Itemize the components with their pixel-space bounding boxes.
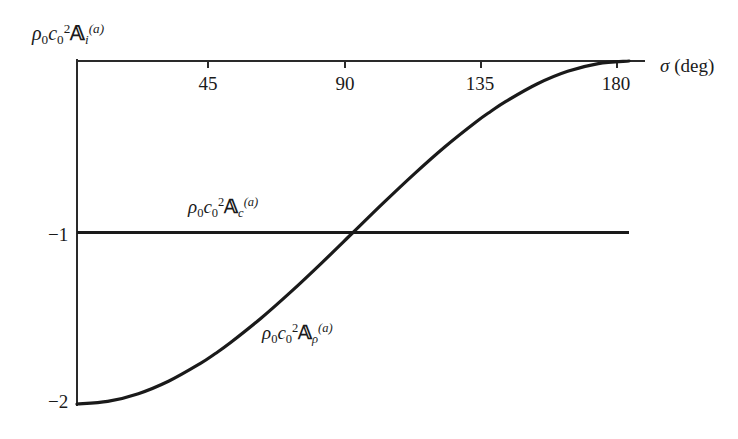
symbol-c: c	[48, 22, 57, 44]
x-tick-label-180: 180	[596, 74, 636, 93]
curve-label-a-rho: ρ0c02𝔸ρ(a)	[262, 322, 333, 345]
x-tick-label-135: 135	[460, 74, 500, 93]
symbol-rho: ρ	[262, 322, 271, 343]
y-tick-label-minus-one: −1	[48, 225, 68, 244]
curve-label-a-c: ρ0c02𝔸c(a)	[188, 196, 258, 219]
x-axis-unit: (deg)	[674, 55, 714, 76]
symbol-c-subscript-0: 0	[57, 32, 64, 47]
symbol-blackboard-A: 𝔸	[224, 196, 238, 217]
y-axis-quantity-label: ρ0c02𝔸i(a)	[32, 22, 104, 46]
symbol-superscript-a: (a)	[89, 21, 104, 36]
y-tick-label-minus-two: −2	[48, 392, 68, 411]
symbol-superscript-a: (a)	[244, 195, 259, 209]
x-tick-label-45: 45	[188, 74, 228, 93]
figure-container: ρ0c02𝔸i(a) ρ0c02𝔸c(a) ρ0c02𝔸ρ(a) σ (deg)…	[0, 0, 738, 439]
x-axis-symbol-sigma: σ	[660, 55, 669, 76]
symbol-c: c	[277, 322, 285, 343]
symbol-blackboard-A: 𝔸	[298, 322, 312, 343]
chart-svg	[0, 0, 738, 439]
symbol-rho: ρ	[188, 196, 197, 217]
symbol-c: c	[203, 196, 211, 217]
symbol-rho: ρ	[32, 22, 42, 44]
x-axis-title: σ (deg)	[660, 56, 714, 75]
x-tick-label-90: 90	[325, 74, 365, 93]
symbol-blackboard-A: 𝔸	[70, 22, 85, 44]
symbol-superscript-a: (a)	[318, 321, 333, 335]
